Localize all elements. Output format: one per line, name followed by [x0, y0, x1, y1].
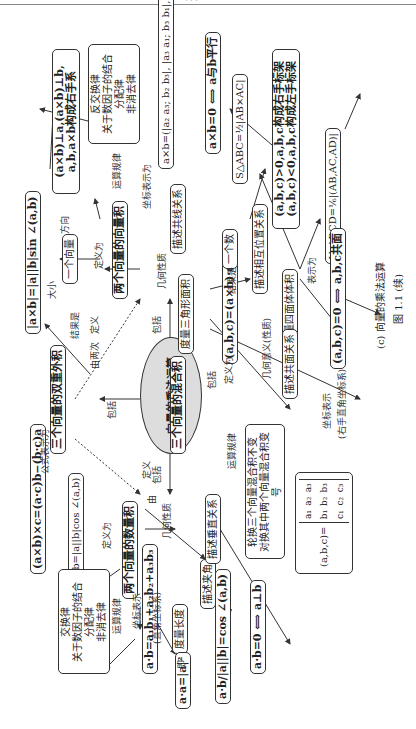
rule-text: 分配律 — [114, 49, 126, 139]
line-text: (a,b,c)<0,a,b,c构成左手标架 — [286, 54, 298, 224]
edge-label: 几何性质 — [155, 253, 168, 289]
edge-label: 几何意义(性质) — [260, 318, 273, 379]
node-cross-size: |a×b|=|a||b|sin ∠(a,b) — [25, 191, 41, 334]
determinant: a₁a₂a₃ b₁b₂b₃ c₁c₂c₃ — [299, 479, 349, 523]
figure-subcaption: (c) 向量的乘法运算 — [372, 262, 387, 349]
rule-text: 反交换律 — [90, 49, 102, 139]
mind-map-rotated: 向量的乘法运算 三个向量的双重外积 两个向量的数量积 两个向量的向量积 三个向量… — [0, 0, 416, 729]
fraction-denominator: |a||b| — [216, 645, 229, 676]
node-text: 一个数 — [224, 234, 235, 264]
node-text: a·b=|a||b|cos ∠(a,b) — [70, 478, 81, 579]
det-cell: b₃ — [317, 482, 331, 493]
edge-label: 坐标表示 — [320, 393, 333, 429]
edge-label: 运算规律 — [225, 433, 238, 469]
node-dot-def: a·b=|a||b|cos ∠(a,b) — [68, 473, 84, 584]
edge-label: 定义为 — [100, 522, 113, 549]
edge-label: 定义为 — [92, 242, 105, 269]
node-orient: (a,b,c)>0,a,b,c构成右手标架 (a,b,c)<0,a,b,c构成左… — [272, 49, 300, 229]
rule-text: 非消去律 — [126, 49, 138, 139]
det-lhs: (a,b,c)= — [318, 526, 329, 567]
edge-label: 定义 — [140, 461, 153, 479]
node-text: 描述垂直关系 — [207, 499, 218, 559]
edge-label: 几何性质 — [160, 503, 173, 539]
edge-label: 方向 — [58, 216, 71, 234]
node-cross-product: 两个向量的向量积 — [112, 201, 128, 299]
node-triangle-area: S△ABC=½|AB×AC| — [232, 74, 248, 184]
edge-label: 运算规律 — [110, 598, 123, 634]
edge-label: 运算规律 — [110, 153, 123, 189]
node-describe-coplanar: 描述共面关系 — [282, 329, 298, 399]
node-text: 两个向量的数量积 — [123, 506, 136, 594]
node-text: a×b=(|a₂ a₃; b₂ b₃|, |a₃ a₁; b₃ b₁|, |a₁… — [160, 0, 171, 164]
node-measure-length: 度量长度 — [172, 604, 188, 654]
node-cross-dir: (a×b)⊥a,(a×b)⊥b, a,b,a×b构成右手系 — [52, 49, 80, 194]
rule-text: 非消去律 — [96, 574, 108, 669]
edge-label: 即 — [175, 660, 188, 669]
node-text: 两个向量的向量积 — [113, 206, 126, 294]
node-text: 描述夹角 — [202, 564, 213, 604]
node-a-vector: 一个向量 — [62, 234, 78, 284]
det-cell: b₂ — [317, 496, 331, 507]
det-cell: c₁ — [333, 509, 347, 520]
edge-label: 由两次 — [88, 342, 101, 369]
rule-text: 关于数因子的结合 — [102, 49, 114, 139]
rule-text: 关于数因子的结合 — [72, 574, 84, 669]
node-describe-perp: 描述垂直关系 — [205, 494, 221, 564]
node-text: 描述相互位置关系 — [254, 209, 265, 289]
node-text: 度量长度 — [174, 609, 185, 649]
node-text: |a×b|=|a||b|sin ∠(a,b) — [26, 196, 39, 329]
node-text: a·b=0 ⟺ a⊥b — [251, 585, 264, 669]
node-text: 三个向量的双重外积 — [51, 350, 64, 449]
node-measure-triangle: 度量三角形面积 — [178, 274, 194, 354]
node-text: a×b=0 ⟺ a与b平行 — [206, 37, 219, 149]
edge-label: 由 — [145, 495, 158, 504]
edge-label: 表示为 — [305, 257, 318, 284]
edge-label: 坐标表示 — [130, 593, 143, 629]
node-cross-rules: 反交换律 关于数因子的结合 分配律 非消去律 — [88, 44, 140, 144]
node-text: 度量三角形面积 — [180, 279, 191, 349]
edge-label: 包括 — [205, 371, 218, 389]
node-mixed-det: (a,b,c)= a₁a₂a₃ b₁b₂b₃ c₁c₂c₃ — [295, 472, 353, 574]
line-text: a,b,a×b构成右手系 — [66, 54, 78, 189]
node-describe-angle: 描述夹角 — [200, 559, 216, 609]
node-describe-position: 描述相互位置关系 — [252, 204, 268, 294]
det-cell: b₁ — [317, 509, 331, 520]
node-text: =cos ∠(a,b) — [216, 574, 229, 646]
figure-caption: 图 1.1 (续) — [390, 274, 405, 324]
node-mixed-rules: 轮换三个向量混合积不变 对换其中两个向量混合积变号 — [245, 424, 285, 559]
edge-label: (右手直角坐标系) — [335, 369, 348, 439]
edge-label: 定义 — [88, 316, 101, 334]
det-cell: a₂ — [301, 496, 315, 507]
edge-label: 包括 — [150, 316, 163, 334]
node-dot-rules: 交换律 关于数因子的结合 分配律 非消去律 — [58, 569, 110, 674]
node-mixed-product: 三个向量的混合积 — [170, 356, 186, 454]
node-text: 描述共面关系 — [284, 334, 295, 394]
edge-label: 结果是 — [68, 312, 81, 339]
rule-text: 轮换三个向量混合积不变 — [247, 429, 259, 554]
node-text: 一个向量 — [64, 239, 75, 279]
det-cell: c₂ — [333, 496, 347, 507]
node-cos-formula: a·b/|a||b|=cos ∠(a,b) — [215, 569, 231, 704]
rule-text: 对换其中两个向量混合积变号 — [259, 429, 283, 554]
det-cell: a₁ — [301, 509, 315, 520]
edge-label: 结果是 — [225, 267, 238, 294]
node-a-number: 一个数 — [222, 229, 238, 269]
node-cross-coord: a×b=(|a₂ a₃; b₂ b₃|, |a₃ a₁; b₃ b₁|, |a₁… — [158, 0, 174, 169]
rule-text: 分配律 — [84, 574, 96, 669]
edge-label: 包括 — [105, 401, 118, 419]
node-coplanar: (a,b,c)=0 ⟺ a,b,c共面 — [330, 228, 346, 369]
node-double-cross: 三个向量的双重外积 — [50, 345, 66, 454]
det-cell: a₃ — [301, 482, 315, 493]
node-text: 描述共线关系 — [172, 189, 183, 249]
node-parallel: a×b=0 ⟺ a与b平行 — [205, 32, 221, 154]
rule-text: 交换律 — [60, 574, 72, 669]
fraction-numerator: a·b — [216, 680, 229, 699]
edge-label: 定义为 — [222, 357, 235, 384]
node-perp: a·b=0 ⟺ a⊥b — [250, 580, 266, 674]
node-describe-collinear: 描述共线关系 — [170, 184, 186, 254]
edge-label: 坐标表示为 — [140, 164, 153, 209]
node-text: 三个向量的混合积 — [171, 361, 184, 449]
edge-label: 公式表示为 — [38, 429, 51, 474]
node-dot-product: 两个向量的数量积 — [122, 501, 138, 599]
edge-label: 大小 — [45, 281, 58, 299]
